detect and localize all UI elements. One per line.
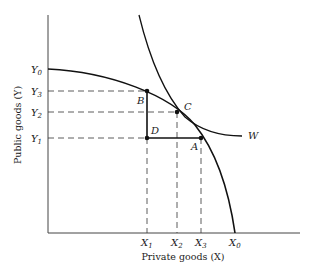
svg-text:Y3: Y3 <box>31 86 43 99</box>
ppf-diagram: B D C A W Y0 Y3 Y2 Y1 X1 X2 X3 X0 Privat… <box>0 0 313 263</box>
svg-text:X1: X1 <box>140 237 153 250</box>
svg-text:X2: X2 <box>170 237 183 250</box>
label-d: D <box>150 125 159 136</box>
svg-text:Y0: Y0 <box>31 64 43 77</box>
y-axis-title: Public goods (Y) <box>12 86 23 164</box>
point-a <box>199 136 204 141</box>
point-b <box>145 89 150 94</box>
x-tick-labels: X1 X2 X3 X0 <box>140 237 241 250</box>
point-d <box>145 136 150 141</box>
x-axis-title: Private goods (X) <box>141 251 224 262</box>
label-b: B <box>136 95 144 106</box>
svg-text:X3: X3 <box>194 237 207 250</box>
y-tick-labels: Y0 Y3 Y2 Y1 <box>31 64 43 146</box>
label-c: C <box>184 101 192 112</box>
diagram-canvas: B D C A W Y0 Y3 Y2 Y1 X1 X2 X3 X0 Privat… <box>0 0 313 263</box>
indifference-curve-w <box>139 15 242 136</box>
svg-text:X0: X0 <box>228 237 241 250</box>
production-frontier-curve <box>48 69 235 233</box>
point-c <box>175 110 180 115</box>
svg-text:Y2: Y2 <box>31 107 43 120</box>
label-w: W <box>248 130 259 141</box>
label-a: A <box>190 141 198 152</box>
svg-text:Y1: Y1 <box>31 133 42 146</box>
